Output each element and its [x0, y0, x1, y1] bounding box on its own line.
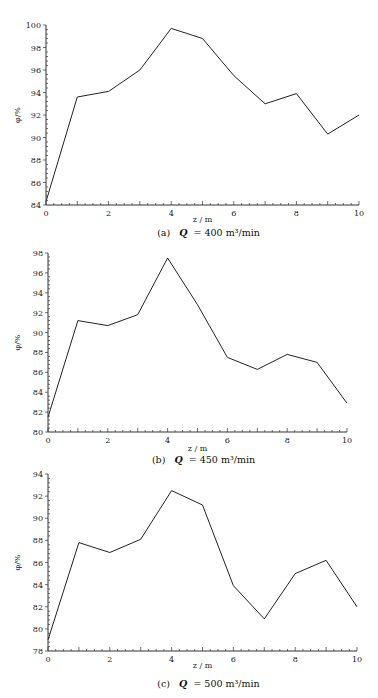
plot-line: [46, 28, 359, 201]
y-tick-label: 98: [31, 44, 41, 53]
x-tick-label: 2: [105, 436, 110, 445]
y-axis-label: φ/%: [13, 334, 22, 350]
y-tick-label: 92: [33, 309, 43, 318]
x-axis-label: z / m: [193, 215, 213, 224]
y-tick-label: 86: [33, 368, 43, 377]
caption-prefix: (a): [157, 227, 170, 238]
y-tick-label: 96: [31, 66, 41, 75]
y-tick-label: 94: [31, 89, 41, 98]
x-axis-label: z / m: [188, 444, 208, 453]
plot-line: [48, 258, 347, 417]
y-tick-label: 86: [33, 559, 43, 568]
chart-a: 0246810 8486889092949698100 z / m φ/% (a…: [13, 21, 364, 238]
y-axis: 788082848688909294: [33, 470, 50, 656]
y-tick-label: 100: [26, 21, 41, 30]
plot-line: [48, 491, 357, 640]
y-tick-label: 88: [33, 536, 43, 545]
y-axis: 8486889092949698100: [26, 21, 48, 210]
y-tick-label: 84: [33, 581, 43, 590]
chart-caption: (a) Q = 400 m³/min: [157, 227, 260, 238]
y-tick-label: 84: [33, 388, 43, 397]
caption-q: Q: [179, 678, 188, 689]
y-tick-label: 86: [31, 179, 41, 188]
x-tick-label: 4: [169, 655, 174, 664]
x-tick-label: 2: [106, 209, 111, 218]
y-tick-label: 88: [33, 348, 43, 357]
x-tick-label: 4: [165, 436, 170, 445]
caption-prefix: (b): [152, 454, 166, 465]
y-axis: 80828486889092949698: [33, 249, 50, 437]
x-tick-label: 10: [342, 436, 352, 445]
x-axis: 0246810: [45, 428, 352, 445]
x-tick-label: 8: [293, 655, 298, 664]
caption-value: = 500 m³/min: [193, 678, 259, 689]
chart-b: 0246810 80828486889092949698 z / m φ/% (…: [13, 249, 352, 465]
y-tick-label: 92: [31, 111, 41, 120]
figure: 0246810 8486889092949698100 z / m φ/% (a…: [0, 0, 378, 698]
x-axis-label: z / m: [193, 661, 213, 670]
caption-q: Q: [174, 454, 183, 465]
y-tick-label: 90: [31, 134, 41, 143]
y-tick-label: 78: [33, 647, 43, 656]
y-tick-label: 94: [33, 470, 43, 479]
x-tick-label: 6: [231, 209, 236, 218]
x-tick-label: 4: [169, 209, 174, 218]
y-axis-label: φ/%: [13, 554, 22, 570]
x-tick-label: 0: [45, 655, 50, 664]
y-tick-label: 92: [33, 492, 43, 501]
caption-value: = 400 m³/min: [194, 227, 260, 238]
x-tick-label: 6: [225, 436, 230, 445]
x-tick-label: 0: [43, 209, 48, 218]
y-tick-label: 94: [33, 289, 43, 298]
chart-caption: (b) Q = 450 m³/min: [152, 454, 255, 465]
caption-q: Q: [179, 227, 188, 238]
y-tick-label: 80: [33, 625, 43, 634]
x-tick-label: 2: [107, 655, 112, 664]
y-tick-label: 80: [33, 428, 43, 437]
y-tick-label: 88: [31, 156, 41, 165]
y-tick-label: 82: [33, 603, 43, 612]
x-tick-label: 10: [354, 209, 364, 218]
chart-c: 0246810 788082848688909294 z / m φ/% (c)…: [13, 470, 362, 689]
x-tick-label: 8: [285, 436, 290, 445]
x-tick-label: 10: [352, 655, 362, 664]
y-axis-label: φ/%: [13, 107, 22, 123]
y-tick-label: 98: [33, 249, 43, 258]
y-tick-label: 90: [33, 329, 43, 338]
x-tick-label: 0: [45, 436, 50, 445]
y-tick-label: 96: [33, 269, 43, 278]
x-tick-label: 6: [231, 655, 236, 664]
y-tick-label: 84: [31, 201, 41, 210]
caption-value: = 450 m³/min: [189, 454, 255, 465]
y-tick-label: 82: [33, 408, 43, 417]
caption-prefix: (c): [157, 678, 170, 689]
chart-caption: (c) Q = 500 m³/min: [157, 678, 259, 689]
y-tick-label: 90: [33, 514, 43, 523]
x-tick-label: 8: [294, 209, 299, 218]
